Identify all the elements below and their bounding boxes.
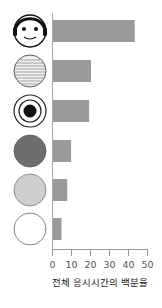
x-axis-title: 전체 응시시간의 백분율 <box>52 277 148 288</box>
category-icons <box>13 15 47 245</box>
bars <box>53 20 135 240</box>
x-tick-label: 30 <box>103 259 115 270</box>
x-tick-label: 50 <box>141 259 153 270</box>
bar-face-icon <box>53 20 135 42</box>
white-circle-icon <box>14 213 46 245</box>
dark-gray-circle-icon <box>14 135 46 167</box>
light-gray-circle-icon <box>14 174 46 206</box>
x-tick-label: 20 <box>84 259 96 270</box>
bar-dark-gray-circle <box>53 140 71 162</box>
bar-text-texture-icon <box>53 60 91 82</box>
target-rings-icon <box>14 95 46 127</box>
x-tick-label: 40 <box>122 259 134 270</box>
x-tick-label: 10 <box>65 259 77 270</box>
x-axis: 01020304050 <box>49 250 153 271</box>
bar-chart: 01020304050 전체 응시시간의 백분율 <box>0 0 162 308</box>
bar-light-gray-circle <box>53 179 67 201</box>
bar-target-rings-icon <box>53 100 89 122</box>
text-texture-icon <box>14 55 46 87</box>
face-icon <box>13 15 47 47</box>
x-tick-label: 0 <box>49 259 55 270</box>
bar-white-circle <box>53 218 62 240</box>
